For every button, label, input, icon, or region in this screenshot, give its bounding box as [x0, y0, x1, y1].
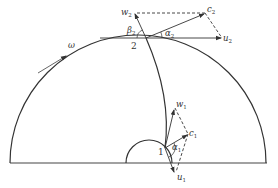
omega-label: ω [68, 40, 75, 50]
u1-label: u1 [177, 172, 186, 183]
w1-c1-dashed [175, 108, 188, 134]
c2-u2-dashed [205, 13, 222, 38]
impeller-diagram: ω w2 c2 u2 α2 β2 2 w1 c1 u1 α1 1 [0, 0, 278, 188]
rotation-arrow-icon [38, 56, 66, 73]
point-1-label: 1 [158, 147, 164, 157]
c2-label: c2 [207, 4, 215, 15]
w2-vector [135, 14, 146, 38]
beta2-arc [137, 30, 143, 38]
blade-curve [146, 38, 166, 148]
alpha1-label: α1 [172, 142, 181, 153]
c2-vector [146, 14, 204, 38]
alpha2-label: α2 [165, 28, 174, 39]
w1-label: w1 [176, 99, 187, 110]
c1-label: c1 [189, 128, 197, 139]
outer-impeller-arc [10, 35, 266, 163]
point-2-label: 2 [131, 41, 137, 51]
w2-label: w2 [121, 7, 132, 18]
c1-u1-dashed [176, 134, 188, 172]
u2-label: u2 [223, 33, 232, 44]
beta2-label: β2 [126, 25, 135, 36]
